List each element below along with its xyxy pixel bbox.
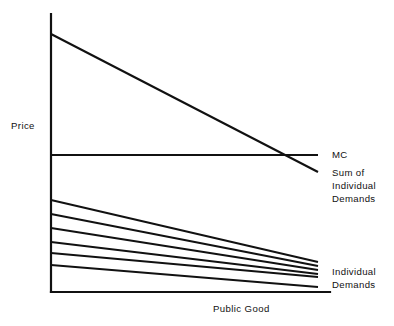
mc-curve-label: MC [332,149,348,160]
sum-of-demands-label-line-1: Sum of [332,167,365,178]
individual-demand-curve-1 [51,200,318,262]
individual-demands-label-line-1: Individual [332,266,376,277]
sum-of-demands-label-line-3: Demands [332,193,376,204]
economics-diagram-figure: Price Public Good MC Sum of Individual D… [0,0,394,326]
sum-of-demands-label-line-2: Individual [332,180,376,191]
x-axis-label: Public Good [213,303,270,314]
individual-demand-curve-5 [51,253,318,277]
individual-demand-curve-3 [51,228,318,270]
y-axis-label: Price [11,120,35,131]
individual-demands-label-line-2: Demands [332,279,376,290]
sum-of-individual-demands-curve [51,34,318,172]
public-good-diagram: Price Public Good MC Sum of Individual D… [0,0,394,326]
